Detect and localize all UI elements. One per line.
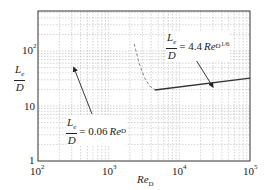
x-label-main: Re [137,173,149,185]
x-tick-base: 10 [30,165,41,177]
arrow-turbulent [196,60,213,87]
x-label-sub: D [149,180,154,188]
x-tick-exp: 2 [41,163,45,171]
arrow-laminar [74,67,92,114]
eq-var: Re [109,125,121,137]
turbulent-solid-line [155,78,250,90]
eq-laminar-fraction: Le D [66,116,77,146]
eq-var: Re [204,40,216,52]
y-label-fraction: Le D [14,63,25,93]
x-tick-1000: 103 [102,166,117,177]
y-axis-label: Le D [14,63,25,93]
eq-exp: 1/6 [221,40,230,48]
eq-rhs: = 0.06 [79,125,107,137]
x-tick-base: 10 [172,165,183,177]
eq-turbulent-fraction: Le D [166,31,177,61]
y-tick-exp: 2 [33,42,37,50]
eq-num-sub: e [173,38,176,46]
x-tick-exp: 3 [113,163,117,171]
x-tick-exp: 5 [254,163,258,171]
y-tick-base: 10 [22,44,33,56]
y-tick-base: 10 [24,100,35,112]
eq-den: D [68,134,76,146]
x-tick-100: 102 [30,166,45,177]
x-tick-base: 10 [243,165,254,177]
eq-num-sub: e [73,123,76,131]
plot-area [0,0,269,190]
x-tick-10000: 104 [172,166,187,177]
annotation-turbulent: Le D = 4.4 ReD1/6 [166,31,230,61]
x-axis-label: ReD [137,174,154,188]
x-tick-base: 10 [102,165,113,177]
annotation-laminar: Le D = 0.06 ReD [66,116,126,146]
y-tick-100: 102 [22,45,37,56]
x-tick-exp: 4 [183,163,187,171]
eq-var-sub: D [121,127,126,135]
eq-den: D [168,49,176,61]
eq-rhs: = 4.4 [179,40,202,52]
y-tick-10: 10 [24,101,35,112]
y-label-num-sub: e [21,70,24,78]
y-label-den: D [16,81,24,93]
x-tick-100000: 105 [243,166,258,177]
